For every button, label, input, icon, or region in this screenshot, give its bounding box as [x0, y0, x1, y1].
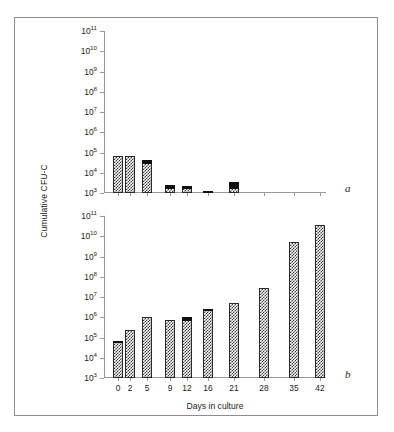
panel-b-y-tick	[100, 297, 104, 298]
panel-b-y-tick-label: 105	[84, 333, 97, 341]
panel-b-y-tick	[100, 257, 104, 258]
panel-b-y-tick-label: 104	[84, 354, 97, 362]
panel-b-y-tick	[100, 216, 104, 217]
panel-a-x-tick	[294, 193, 295, 196]
x-axis-title: Days in culture	[104, 401, 326, 411]
bar-black-cap	[113, 341, 123, 343]
panel-b-x-tick	[118, 378, 119, 381]
panel-a-x-tick	[208, 193, 209, 196]
x-tick-label-21: 21	[229, 383, 238, 393]
panel-b-y-tick	[100, 317, 104, 318]
panel-b-y-axis-line	[104, 216, 105, 378]
bar-day-2-panel-a	[125, 156, 135, 193]
panel-a-plot-area: 10310410510610710810910101011	[104, 31, 326, 193]
panel-a-y-tick-label: 103	[84, 189, 97, 197]
bar-black-cap	[182, 186, 192, 189]
panel-a-x-axis-line	[104, 192, 326, 193]
panel-b-y-tick	[100, 236, 104, 237]
bar-day-42-panel-b	[315, 225, 325, 378]
bar-black-cap	[182, 317, 192, 321]
panel-a-y-tick-label: 109	[84, 67, 97, 75]
bar-day-5-panel-b	[142, 317, 152, 378]
panel-b-y-tick-label: 106	[84, 313, 97, 321]
panel-a-y-tick	[100, 51, 104, 52]
panel-b-x-tick	[234, 378, 235, 381]
panel-b-y-tick	[100, 358, 104, 359]
x-tick-label-2: 2	[128, 383, 133, 393]
panel-a-x-tick	[130, 193, 131, 196]
bar-day-16-panel-a	[203, 191, 213, 193]
panel-a-letter: a	[345, 182, 351, 194]
panel-b-x-tick	[264, 378, 265, 381]
bar-day-16-panel-b	[203, 309, 213, 378]
panel-b-y-tick	[100, 378, 104, 379]
bar-day-12-panel-a	[182, 186, 192, 193]
x-tick-label-35: 35	[289, 383, 298, 393]
x-tick-label-28: 28	[259, 383, 268, 393]
panel-a-y-tick	[100, 153, 104, 154]
bar-black-cap	[165, 185, 175, 190]
panel-a-y-tick-label: 1010	[81, 47, 97, 55]
panel-a-y-tick	[100, 112, 104, 113]
panel-b-x-tick	[130, 378, 131, 381]
bar-day-21-panel-b	[229, 303, 239, 378]
bar-day-28-panel-b	[259, 288, 269, 378]
bar-day-2-panel-b	[125, 330, 135, 378]
panel-a-x-tick	[170, 193, 171, 196]
panel-a-y-tick	[100, 92, 104, 93]
panel-b-y-tick-label: 103	[84, 374, 97, 382]
bar-black-cap	[229, 182, 239, 189]
panel-a-y-tick	[100, 72, 104, 73]
panel-a-x-tick	[234, 193, 235, 196]
panel-b-y-tick	[100, 277, 104, 278]
panel-b-x-tick	[294, 378, 295, 381]
bar-day-0-panel-a	[113, 156, 123, 193]
panel-b-letter: b	[345, 368, 351, 380]
x-tick-label-5: 5	[145, 383, 150, 393]
bar-day-9-panel-b	[165, 320, 175, 378]
panel-b-y-tick-label: 1011	[81, 212, 97, 220]
panel-a: 10310410510610710810910101011 a	[0, 22, 394, 202]
panel-b-y-tick-label: 109	[84, 252, 97, 260]
bar-day-35-panel-b	[289, 242, 299, 378]
panel-a-y-tick	[100, 173, 104, 174]
panel-b-x-tick	[170, 378, 171, 381]
panel-b-x-tick	[147, 378, 148, 381]
x-tick-label-0: 0	[116, 383, 121, 393]
panel-b-x-tick	[187, 378, 188, 381]
x-tick-label-9: 9	[168, 383, 173, 393]
bar-black-cap	[142, 160, 152, 164]
panel-b-y-tick	[100, 338, 104, 339]
x-tick-label-16: 16	[203, 383, 212, 393]
bar-black-cap	[203, 191, 213, 193]
x-tick-label-12: 12	[182, 383, 191, 393]
panel-a-y-tick-label: 106	[84, 128, 97, 136]
panel-b-plot-area: 1031041051061071081091010101102591216212…	[104, 216, 326, 378]
panel-a-y-tick	[100, 31, 104, 32]
panel-b-y-tick-label: 107	[84, 293, 97, 301]
panel-b-y-tick-label: 108	[84, 273, 97, 281]
bar-day-12-panel-b	[182, 317, 192, 378]
panel-a-y-tick-label: 105	[84, 148, 97, 156]
bar-day-21-panel-a	[229, 182, 239, 193]
panel-b-x-tick	[320, 378, 321, 381]
figure-root: Cumulative CFU-C 10310410510610710810910…	[0, 0, 394, 432]
panel-b-x-tick	[208, 378, 209, 381]
x-tick-label-42: 42	[315, 383, 324, 393]
panel-a-x-tick	[118, 193, 119, 196]
panel-a-y-axis-line	[104, 31, 105, 193]
bar-day-0-panel-b	[113, 341, 123, 378]
bar-day-9-panel-a	[165, 185, 175, 193]
bar-day-5-panel-a	[142, 160, 152, 193]
bar-black-cap	[203, 309, 213, 311]
panel-b-y-tick-label: 1010	[81, 232, 97, 240]
panel-a-y-tick-label: 1011	[81, 27, 97, 35]
panel-a-y-tick	[100, 193, 104, 194]
panel-a-x-tick	[320, 193, 321, 196]
panel-a-y-tick-label: 108	[84, 88, 97, 96]
panel-a-x-tick	[147, 193, 148, 196]
panel-a-y-tick	[100, 132, 104, 133]
panel-b: 1031041051061071081091010101102591216212…	[0, 208, 394, 393]
panel-a-x-tick	[187, 193, 188, 196]
panel-a-y-tick-label: 107	[84, 108, 97, 116]
